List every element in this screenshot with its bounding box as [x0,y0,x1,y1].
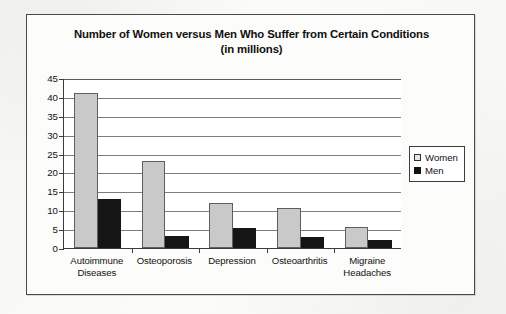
bar[interactable] [209,203,233,248]
x-tick [334,248,335,253]
legend-swatch-men-icon [414,167,421,174]
y-axis-label-20: 20 [34,169,58,179]
legend-swatch-women-icon [414,154,421,161]
bar[interactable] [165,236,189,248]
y-tick-0 [59,249,64,250]
bar-group [132,79,200,248]
category-label: MigraineHeadaches [327,255,407,279]
bar[interactable] [301,237,325,248]
y-axis-label-0: 0 [34,244,58,254]
category-label-line-1: Autoimmune [70,255,123,266]
chart-title: Number of Women versus Men Who Suffer fr… [35,27,468,57]
chart-title-line-2: (in millions) [35,42,468,57]
legend-label: Men [425,166,444,176]
y-axis-label-45: 45 [34,74,58,84]
bar[interactable] [98,199,122,248]
category-label-line-1: Migraine [349,255,385,266]
y-axis-label-40: 40 [34,93,58,103]
category-label-line-1: Osteoarthritis [272,255,328,266]
bar-group [267,79,335,248]
legend-item-women[interactable]: Women [414,151,458,164]
bar[interactable] [277,208,301,248]
x-tick [267,248,268,253]
bar-group [334,79,402,248]
category-label-line-1: Osteoporosis [137,255,192,266]
x-tick [199,248,200,253]
category-label-line-2: Headaches [327,267,407,279]
category-label-line-1: Depression [208,255,256,266]
x-tick [132,248,133,253]
plot-area: 051015202530354045 [63,79,401,249]
bar[interactable] [74,93,98,248]
bar-group [199,79,267,248]
chart-title-line-1: Number of Women versus Men Who Suffer fr… [74,28,429,40]
bar[interactable] [142,161,166,248]
y-axis-label-25: 25 [34,150,58,160]
category-label-line-2: Diseases [57,267,137,279]
y-axis-label-15: 15 [34,187,58,197]
bar[interactable] [368,240,392,248]
bar[interactable] [233,228,257,248]
bar-group [64,79,132,248]
y-axis-label-30: 30 [34,131,58,141]
chart-legend: WomenMen [409,146,465,182]
bar[interactable] [345,227,369,248]
y-axis-label-10: 10 [34,206,58,216]
legend-item-men[interactable]: Men [414,164,458,177]
y-axis-label-35: 35 [34,112,58,122]
legend-label: Women [425,153,458,163]
y-axis-label-5: 5 [34,225,58,235]
chart-frame: Number of Women versus Men Who Suffer fr… [26,14,475,295]
